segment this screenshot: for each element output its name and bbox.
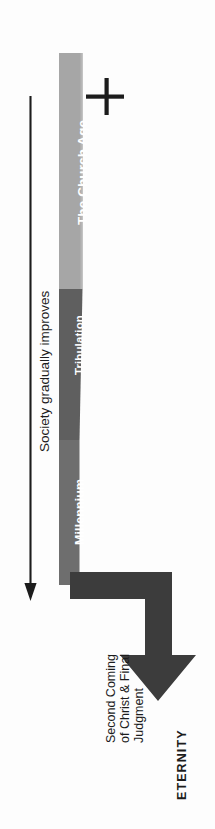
- society-arrow-label: Society gradually improves: [38, 291, 52, 452]
- second-coming-line-3: Judgment: [132, 654, 146, 743]
- cross-icon: [86, 78, 124, 115]
- second-coming-line-2: of Christ & Final: [118, 654, 132, 743]
- society-arrow: [24, 96, 36, 601]
- band-label-church-age: The Church Age: [76, 120, 90, 225]
- second-coming-label: Second Coming of Christ & Final Judgment: [104, 654, 146, 743]
- band-label-millennium: Millennium: [74, 479, 87, 545]
- eschatology-timeline-diagram: The Church Age Tribulation Millennium So…: [0, 0, 215, 829]
- band-label-tribulation: Tribulation: [74, 315, 86, 375]
- eternity-label: ETERNITY: [176, 729, 189, 800]
- second-coming-line-1: Second Coming: [104, 654, 118, 743]
